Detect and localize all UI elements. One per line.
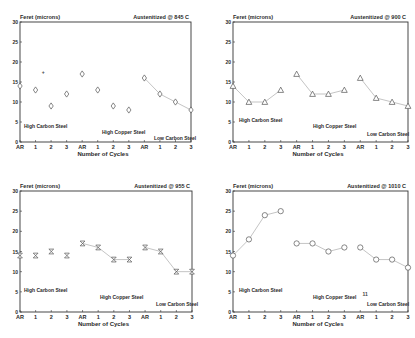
x-tick-label: 2 xyxy=(263,314,266,320)
x-tick-label: 1 xyxy=(96,144,99,150)
series-label-high-copper: High Copper Steel xyxy=(313,294,356,300)
x-axis-title: Number of Cycles xyxy=(293,321,344,327)
svg-text:+: + xyxy=(42,69,45,75)
x-tick-label: 3 xyxy=(65,144,68,150)
y-axis-title: Feret (microns) xyxy=(233,183,273,189)
y-tick-label: 5 xyxy=(228,119,231,125)
series-label-high-carbon: High Carbon Steel xyxy=(239,117,282,123)
y-axis-title: Feret (microns) xyxy=(20,14,60,20)
x-tick-label: 3 xyxy=(127,144,130,150)
x-tick-label: 1 xyxy=(97,314,100,320)
x-tick-label: 2 xyxy=(50,144,53,150)
x-tick-label: AR xyxy=(356,314,364,320)
x-tick-label: 3 xyxy=(65,314,68,320)
series-label-high-copper: High Copper Steel xyxy=(102,129,145,135)
series-line xyxy=(145,247,192,271)
x-tick-label: 3 xyxy=(343,314,346,320)
series-line xyxy=(297,243,345,251)
y-tick-label: 30 xyxy=(12,19,18,25)
y-tick-label: 10 xyxy=(225,269,231,275)
x-tick-label: 1 xyxy=(247,144,250,150)
x-tick-label: AR xyxy=(229,144,237,150)
y-axis-title: Feret (microns) xyxy=(20,183,60,189)
y-tick-label: 15 xyxy=(12,249,18,255)
y-axis-title: Feret (microns) xyxy=(233,14,273,20)
y-tick-label: 15 xyxy=(225,79,231,85)
series-line xyxy=(83,243,130,259)
x-tick-label: AR xyxy=(356,144,364,150)
series-label-high-carbon: High Carbon Steel xyxy=(239,287,282,293)
x-axis-title: Number of Cycles xyxy=(293,151,344,157)
x-tick-label: 3 xyxy=(279,144,282,150)
x-tick-label: 2 xyxy=(50,314,53,320)
x-tick-label: 3 xyxy=(128,314,131,320)
x-tick-label: 1 xyxy=(311,144,314,150)
x-tick-label: 2 xyxy=(112,144,115,150)
series-line xyxy=(297,74,345,94)
x-tick-label: AR xyxy=(229,314,237,320)
y-tick-label: 10 xyxy=(225,99,231,105)
y-tick-label: 25 xyxy=(12,208,18,214)
x-tick-label: 2 xyxy=(112,314,115,320)
y-tick-label: 30 xyxy=(12,188,18,194)
x-tick-label: AR xyxy=(16,144,24,150)
x-tick-label: 1 xyxy=(159,314,162,320)
y-tick-label: 25 xyxy=(12,39,18,45)
chart-title: Austenitized @ 955 C xyxy=(118,183,190,189)
y-tick-label: 20 xyxy=(225,228,231,234)
x-tick-label: 3 xyxy=(406,314,409,320)
x-tick-label: AR xyxy=(16,314,24,320)
y-tick-label: 5 xyxy=(228,289,231,295)
y-tick-label: 30 xyxy=(225,19,231,25)
x-tick-label: AR xyxy=(78,144,86,150)
x-tick-label: 1 xyxy=(158,144,161,150)
x-tick-label: 2 xyxy=(391,314,394,320)
y-tick-label: 10 xyxy=(12,269,18,275)
x-tick-label: 2 xyxy=(391,144,394,150)
x-tick-label: AR xyxy=(140,144,148,150)
x-tick-label: 3 xyxy=(406,144,409,150)
series-label-low-carbon: Low Carbon Steel xyxy=(154,135,196,141)
x-tick-label: 1 xyxy=(375,144,378,150)
y-tick-label: 20 xyxy=(12,59,18,65)
series-label-high-copper: High Copper Steel xyxy=(313,123,356,129)
x-tick-label: AR xyxy=(141,314,149,320)
series-line xyxy=(233,211,281,255)
series-label-low-carbon: Low Carbon Steel xyxy=(156,301,198,307)
x-tick-label: 2 xyxy=(327,144,330,150)
series-label-high-carbon: High Carbon Steel xyxy=(24,287,67,293)
chart-panel-2: 051015202530AR123AR123AR123Feret (micron… xyxy=(233,22,408,142)
y-tick-label: 20 xyxy=(12,228,18,234)
svg-text:11: 11 xyxy=(362,291,368,297)
x-tick-label: AR xyxy=(293,144,301,150)
y-tick-label: 30 xyxy=(225,188,231,194)
y-tick-label: 25 xyxy=(225,208,231,214)
x-tick-label: 1 xyxy=(375,314,378,320)
x-tick-label: 2 xyxy=(175,314,178,320)
series-line xyxy=(360,247,408,267)
chart-title: Austenitized @ 845 C xyxy=(117,14,189,20)
x-tick-label: 2 xyxy=(174,144,177,150)
x-tick-label: 3 xyxy=(190,314,193,320)
series-label-high-copper: High Copper Steel xyxy=(100,294,143,300)
chart-panel-4: 11051015202530AR123AR123AR123Feret (micr… xyxy=(233,191,408,312)
x-tick-label: AR xyxy=(293,314,301,320)
x-axis-title: Number of Cycles xyxy=(78,321,129,327)
chart-title: Austenitized @ 1010 C xyxy=(334,183,406,189)
chart-panel-1: +051015202530AR123AR123AR123Feret (micro… xyxy=(20,22,191,142)
y-tick-label: 20 xyxy=(225,59,231,65)
y-tick-label: 15 xyxy=(225,249,231,255)
x-axis-title: Number of Cycles xyxy=(78,151,129,157)
chart-panel-3: 051015202530AR123AR123AR123Feret (micron… xyxy=(20,191,192,312)
x-tick-label: 1 xyxy=(311,314,314,320)
y-tick-label: 5 xyxy=(15,119,18,125)
x-tick-label: 2 xyxy=(327,314,330,320)
series-label-high-carbon: High Carbon Steel xyxy=(24,123,67,129)
x-tick-label: 1 xyxy=(247,314,250,320)
series-line xyxy=(233,86,281,102)
x-tick-label: 3 xyxy=(343,144,346,150)
x-tick-label: 3 xyxy=(189,144,192,150)
series-label-low-carbon: Low Carbon Steel xyxy=(367,131,409,137)
y-tick-label: 5 xyxy=(15,289,18,295)
series-label-low-carbon: Low Carbon Steel xyxy=(367,301,409,307)
